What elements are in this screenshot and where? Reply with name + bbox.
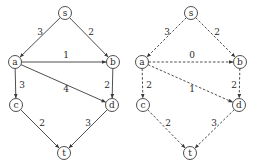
edge-weight-label: 1 xyxy=(63,50,69,60)
node-label: a xyxy=(139,57,145,67)
edge-line xyxy=(69,110,107,148)
edge-d-t: 3 xyxy=(195,110,234,149)
node-b: b xyxy=(234,56,247,69)
node-label: s xyxy=(63,8,68,18)
edge-line xyxy=(147,18,186,57)
edge-weight-label: 1 xyxy=(189,84,195,94)
edge-line xyxy=(195,110,234,149)
edge-c-t: 2 xyxy=(21,110,59,148)
edge-weight-label: 2 xyxy=(165,118,171,128)
edge-s-a: 3 xyxy=(20,18,60,58)
edge-weight-label: 3 xyxy=(37,27,43,37)
edge-weight-label: 2 xyxy=(214,27,220,37)
edge-weight-label: 4 xyxy=(63,84,69,94)
node-label: t xyxy=(188,148,192,158)
node-d: d xyxy=(233,99,246,112)
node-label: d xyxy=(109,100,115,110)
node-a: a xyxy=(9,56,22,69)
edge-a-d: 4 xyxy=(21,65,106,103)
edge-weight-label: 3 xyxy=(211,118,217,128)
edge-weight-label: 2 xyxy=(104,80,110,90)
edge-line xyxy=(21,110,59,148)
node-d: d xyxy=(106,99,119,112)
node-b: b xyxy=(107,56,120,69)
node-label: c xyxy=(13,100,18,110)
edge-c-t: 2 xyxy=(148,110,186,148)
graph-left: 32134223sabcdt xyxy=(9,7,120,160)
node-t: t xyxy=(184,147,197,160)
node-s: s xyxy=(185,7,198,20)
edge-b-d: 2 xyxy=(231,68,240,98)
node-label: c xyxy=(140,100,145,110)
edge-b-d: 2 xyxy=(104,68,113,98)
edge-weight-label: 3 xyxy=(164,27,170,37)
node-t: t xyxy=(58,147,71,160)
node-label: a xyxy=(12,57,18,67)
node-label: b xyxy=(110,57,116,67)
node-label: s xyxy=(189,8,194,18)
edge-a-b: 0 xyxy=(149,50,234,62)
graph-right: 32021223sabcdt xyxy=(136,7,247,160)
edge-weight-label: 2 xyxy=(39,118,45,128)
edge-weight-label: 0 xyxy=(189,50,195,60)
edge-weight-label: 2 xyxy=(88,27,94,37)
node-a: a xyxy=(136,56,149,69)
edge-line xyxy=(239,68,240,98)
edge-line xyxy=(20,18,60,58)
node-label: b xyxy=(237,57,243,67)
edge-line xyxy=(112,68,113,98)
node-c: c xyxy=(137,99,150,112)
edge-line xyxy=(70,18,109,57)
edge-a-d: 1 xyxy=(148,65,233,103)
node-s: s xyxy=(59,7,72,20)
edge-d-t: 3 xyxy=(69,110,107,148)
edge-weight-label: 3 xyxy=(85,118,91,128)
edge-s-a: 3 xyxy=(147,18,186,57)
edge-line xyxy=(148,110,186,148)
edge-a-c: 3 xyxy=(15,68,25,98)
edge-a-b: 1 xyxy=(22,50,107,62)
edge-s-b: 2 xyxy=(196,18,235,57)
node-c: c xyxy=(10,99,23,112)
edge-weight-label: 3 xyxy=(19,80,25,90)
edge-line xyxy=(15,68,16,98)
edge-s-b: 2 xyxy=(70,18,109,57)
edge-line xyxy=(196,18,235,57)
graph-diagram: 32134223sabcdt32021223sabcdt xyxy=(0,0,253,162)
node-label: t xyxy=(62,148,66,158)
edge-weight-label: 2 xyxy=(146,80,152,90)
edge-weight-label: 2 xyxy=(231,80,237,90)
edge-a-c: 2 xyxy=(142,68,152,98)
edge-line xyxy=(142,68,143,98)
node-label: d xyxy=(236,100,242,110)
